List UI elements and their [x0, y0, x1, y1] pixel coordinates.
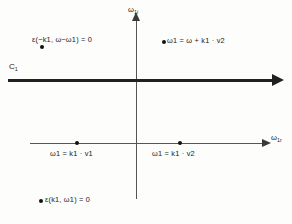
figure-canvas: ω1i ω1r C1 ε(−k1, ω−ω1) = 0 ω1 = ω + k1 … [0, 0, 292, 224]
contour-c1-label: C1 [9, 63, 18, 71]
point-label-k1v1: ω1 = k1 · v1 [50, 150, 93, 157]
imaginary-axis-label-sub: 1i [134, 9, 138, 15]
real-axis-line [30, 143, 266, 144]
point-marker-eps-plus [39, 199, 43, 203]
imaginary-axis-line [136, 18, 137, 199]
contour-c1-arrowhead-icon [272, 74, 284, 86]
real-axis-arrowhead-icon [262, 139, 271, 147]
contour-c1-label-sub: 1 [15, 66, 18, 72]
point-marker-k1v2 [178, 141, 182, 145]
real-axis-label: ω1r [271, 134, 282, 142]
point-label-omega-v2-top: ω1 = ω + k1 · v2 [167, 37, 225, 44]
real-axis-label-sub: 1r [277, 137, 282, 143]
imaginary-axis-label: ω1i [128, 6, 138, 14]
point-marker-eps-minus [40, 45, 44, 49]
point-marker-k1v1 [75, 141, 79, 145]
point-label-eps-plus: ε(k1, ω1) = 0 [45, 196, 90, 203]
point-label-eps-minus: ε(−k1, ω−ω1) = 0 [32, 36, 92, 43]
point-label-k1v2: ω1 = k1 · v2 [152, 150, 195, 157]
contour-c1-label-base: C [9, 62, 15, 71]
point-marker-omega-v2-top [162, 40, 166, 44]
contour-c1-line [8, 79, 276, 82]
